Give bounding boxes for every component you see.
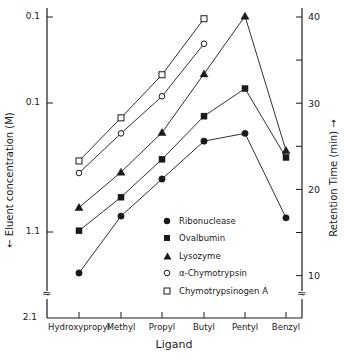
right-tick-label: 30 (308, 98, 320, 109)
data-point-open-square-icon (201, 16, 207, 22)
data-point-filled-circle-icon (159, 176, 165, 182)
legend-label: Chymotrypsinogen A (179, 286, 268, 296)
data-point-open-circle-icon (159, 94, 165, 100)
x-axis-title: Ligand (156, 338, 193, 351)
right-tick-label: 40 (308, 11, 320, 22)
category-label: Benzyl (272, 322, 300, 332)
filled-triangle-icon (155, 252, 179, 260)
right-axis-break-icon: ≈ (297, 287, 306, 300)
series-line (79, 44, 204, 173)
series-line (79, 19, 204, 161)
legend-label: Lysozyme (179, 251, 221, 261)
category-label: Butyl (193, 322, 215, 332)
left-tick-label: 0.1 (0, 11, 40, 21)
left-axis-break-icon: ≈ (42, 287, 51, 300)
legend-item-lysozyme: Lysozyme (155, 247, 268, 265)
legend-item-chymotrypsinogen-a: Chymotrypsinogen A (155, 282, 268, 300)
data-point-filled-square-icon (242, 86, 248, 92)
right-y-axis-title: Retention Time (min) → (328, 119, 339, 236)
legend-label: Ovalbumin (179, 233, 225, 243)
data-point-filled-triangle-icon (282, 147, 290, 154)
data-point-open-circle-icon (201, 41, 207, 47)
right-tick-label: 10 (308, 270, 320, 281)
legend-item-ribonuclease: Ribonuclease (155, 212, 268, 230)
legend-label: α-Chymotrypsin (179, 268, 247, 278)
legend-label: Ribonuclease (179, 216, 236, 226)
legend: Ribonuclease Ovalbumin Lysozyme α-Chymot… (155, 212, 268, 300)
data-point-filled-circle-icon (76, 270, 82, 276)
data-point-filled-square-icon (118, 194, 124, 200)
data-point-open-square-icon (159, 72, 165, 78)
data-point-open-circle-icon (118, 131, 124, 137)
data-point-open-circle-icon (76, 170, 82, 176)
right-tick-label: 20 (308, 184, 320, 195)
series-line (79, 16, 286, 207)
data-point-filled-triangle-icon (158, 129, 166, 136)
data-point-filled-circle-icon (201, 138, 207, 144)
data-point-filled-circle-icon (283, 215, 289, 221)
data-point-filled-circle-icon (242, 130, 248, 136)
left-tick-label: 2.1 (0, 312, 37, 322)
data-point-filled-circle-icon (118, 213, 124, 219)
data-point-filled-triangle-icon (75, 204, 83, 211)
open-square-icon (155, 287, 179, 295)
series-line (79, 89, 286, 231)
left-tick-label: 0.1 (0, 97, 40, 107)
open-circle-icon (155, 269, 179, 277)
data-point-filled-triangle-icon (241, 12, 249, 19)
data-point-filled-square-icon (283, 155, 289, 161)
data-point-filled-square-icon (76, 228, 82, 234)
data-point-open-square-icon (76, 158, 82, 164)
data-point-filled-square-icon (159, 156, 165, 162)
chart-canvas (0, 0, 344, 360)
left-y-axis-title: ← Eluent concentration (M) (4, 112, 15, 247)
filled-square-icon (155, 234, 179, 242)
category-label: Methyl (107, 322, 136, 332)
filled-circle-icon (155, 217, 179, 225)
category-label: Hydroxypropyl (48, 322, 110, 332)
legend-item-ovalbumin: Ovalbumin (155, 230, 268, 248)
legend-item-alpha-chymotrypsin: α-Chymotrypsin (155, 265, 268, 283)
data-point-open-square-icon (118, 115, 124, 121)
category-label: Propyl (149, 322, 175, 332)
category-label: Pentyl (232, 322, 258, 332)
data-point-filled-triangle-icon (200, 70, 208, 77)
data-point-filled-square-icon (201, 113, 207, 119)
